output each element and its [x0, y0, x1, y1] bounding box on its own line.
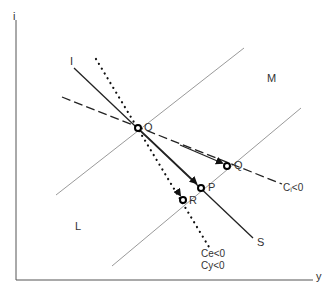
- is-line-start-label: I: [70, 56, 73, 67]
- point-p: [198, 185, 204, 191]
- point-r-label: R: [189, 195, 197, 206]
- point-p-label: P: [208, 182, 215, 193]
- dotted-line-label-cy: Cy<0: [201, 261, 225, 271]
- point-o: [135, 125, 141, 131]
- arrow-o-to-p: [140, 130, 196, 183]
- dotted-line: [96, 59, 209, 247]
- arrow-o-to-q: [180, 145, 222, 163]
- x-axis-label: y: [316, 271, 322, 282]
- dotted-line-label-ce: Ce<0: [201, 249, 225, 259]
- point-o-label: O: [144, 122, 153, 133]
- region-label-l: L: [75, 221, 81, 232]
- is-line-end-label: S: [257, 237, 264, 248]
- point-r: [180, 197, 186, 203]
- y-axis-label: i: [13, 11, 15, 22]
- point-q-label: Q: [234, 160, 243, 171]
- point-q: [224, 163, 230, 169]
- dashed-line-label: Cᵢ<0: [283, 183, 303, 193]
- dashed-line: [62, 97, 282, 184]
- region-label-m: M: [267, 73, 276, 84]
- diagram-lines: [0, 0, 331, 308]
- diagram: i y M L I S Cᵢ<0 Ce<0 Cy<0 O Q P R: [0, 0, 331, 308]
- arrow-o-to-r: [170, 180, 180, 195]
